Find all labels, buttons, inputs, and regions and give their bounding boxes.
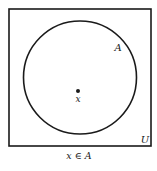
venn-diagram: x A U x ∈ A <box>0 0 157 171</box>
universe-label: U <box>141 134 150 145</box>
element-x-label: x <box>75 94 80 104</box>
caption: x ∈ A <box>66 150 91 161</box>
set-a-circle <box>24 21 137 134</box>
universe-rectangle <box>9 9 151 146</box>
set-a-label: A <box>113 42 121 53</box>
element-x-point <box>76 89 80 93</box>
